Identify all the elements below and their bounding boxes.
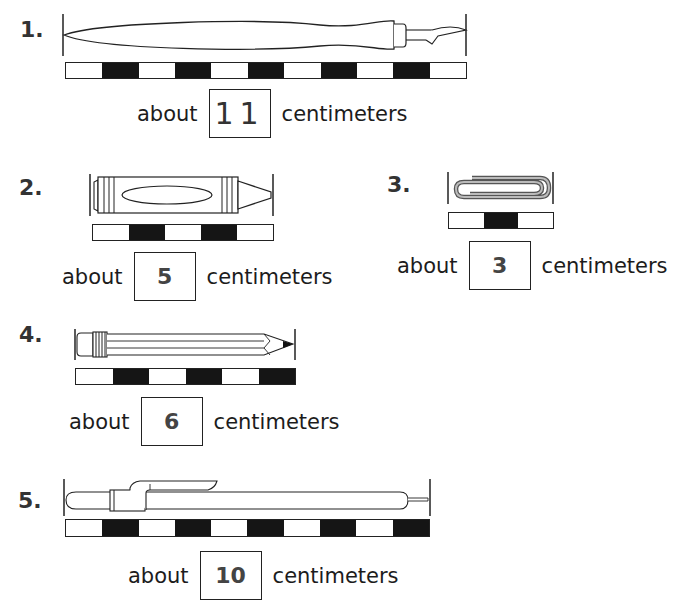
answer-box[interactable]: 6 [141,397,203,446]
ruler-segment [102,520,138,536]
ruler-segment [449,213,484,228]
ruler-segment [237,225,273,240]
about-label: about [137,102,198,126]
ruler-segment [76,369,113,384]
unit-label: centimeters [282,102,408,126]
ruler-segment [113,369,150,384]
ruler-segment [165,225,201,240]
ruler-10cm [65,519,430,537]
item-number: 4. [19,322,43,347]
fountain-pen-illustration [60,12,472,58]
ruler-segment [139,63,175,78]
ruler-segment [356,520,392,536]
ruler-segment [222,369,259,384]
ruler-segment [259,369,296,384]
ruler-segment [393,63,429,78]
ruler-segment [139,520,175,536]
ruler-3cm [448,212,554,229]
ruler-segment [186,369,223,384]
ruler-segment [321,63,357,78]
ruler-segment [93,225,129,240]
ruler-segment [320,520,356,536]
ruler-segment [66,520,102,536]
unit-label: centimeters [273,564,399,588]
about-label: about [128,564,189,588]
ruler-segment [248,63,284,78]
ruler-segment [66,63,102,78]
item-number: 3. [387,172,411,197]
ruler-segment [430,63,466,78]
ruler-segment [484,213,519,228]
ruler-6cm [75,368,296,385]
ruler-segment [175,63,211,78]
unit-label: centimeters [214,410,340,434]
pencil-illustration [71,327,301,363]
answer-box[interactable]: 5 [134,252,196,301]
ruler-segment [211,520,247,536]
ruler-segment [201,225,237,240]
ruler-segment [518,213,553,228]
about-label: about [69,410,130,434]
mechanical-pencil-illustration [60,476,436,518]
answer-box[interactable]: 3 [469,241,531,290]
ruler-segment [357,63,393,78]
ruler-segment [284,520,320,536]
answer-row: about 3 centimeters [397,241,668,290]
about-label: about [397,254,458,278]
paper-clip-illustration [444,170,558,206]
ruler-segment [247,520,283,536]
crayon-illustration [86,172,278,218]
answer-row: about 11 centimeters [137,89,408,138]
ruler-segment [102,63,138,78]
ruler-5cm [92,224,274,241]
unit-label: centimeters [207,265,333,289]
ruler-segment [393,520,429,536]
ruler-segment [211,63,247,78]
about-label: about [62,265,123,289]
answer-box[interactable]: 11 [209,89,271,138]
answer-row: about 10 centimeters [128,551,399,600]
item-number: 2. [19,175,43,200]
answer-row: about 5 centimeters [62,252,333,301]
unit-label: centimeters [542,254,668,278]
item-number: 5. [18,488,42,513]
ruler-segment [284,63,320,78]
ruler-11cm [65,62,467,79]
ruler-segment [149,369,186,384]
item-number: 1. [20,17,44,42]
ruler-segment [175,520,211,536]
ruler-segment [129,225,165,240]
answer-row: about 6 centimeters [69,397,340,446]
answer-box[interactable]: 10 [200,551,262,600]
